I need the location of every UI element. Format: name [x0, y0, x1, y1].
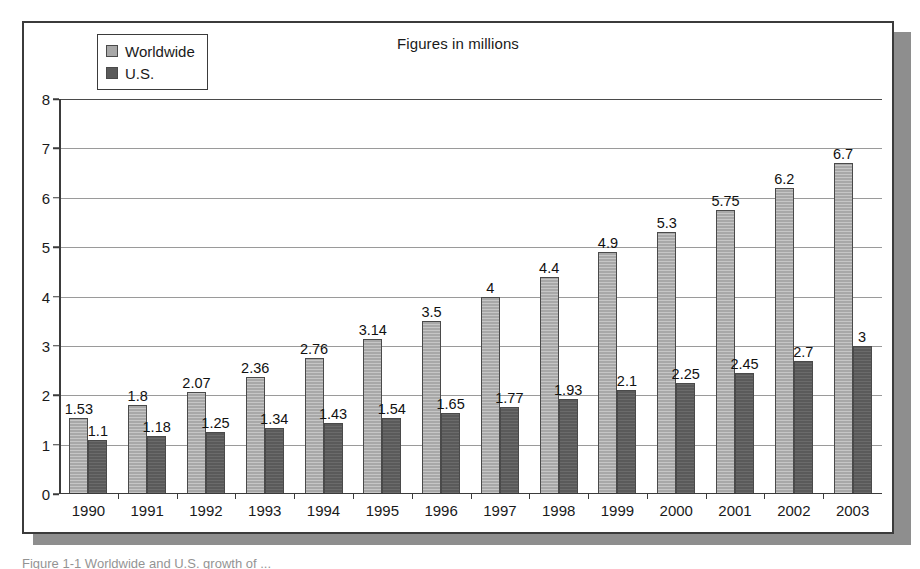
x-tick-mark	[118, 494, 119, 499]
bar-us[interactable]: 2.7	[794, 361, 813, 494]
bar-value-label: 2.25	[672, 366, 700, 382]
bar-group: 3.141.541995	[353, 99, 412, 494]
x-tick-mark	[706, 494, 707, 499]
bar-value-label: 2.36	[241, 360, 269, 376]
bar-worldwide[interactable]: 1.53	[69, 418, 88, 494]
bar-value-label: 3.14	[359, 322, 387, 338]
bar-us[interactable]: 2.25	[676, 383, 695, 494]
x-tick-label: 1993	[248, 502, 281, 519]
x-tick-label: 1995	[366, 502, 399, 519]
bar-value-label: 2.76	[300, 341, 328, 357]
bar-us[interactable]: 1.18	[147, 436, 166, 494]
figure-caption: Figure 1-1 Worldwide and U.S. growth of …	[22, 556, 271, 569]
bar-us[interactable]: 1.34	[265, 428, 284, 494]
x-tick-label: 1990	[72, 502, 105, 519]
y-axis-line	[59, 99, 61, 494]
x-tick-mark	[823, 494, 824, 499]
bar-group: 5.32.252000	[647, 99, 706, 494]
bar-worldwide[interactable]: 6.2	[775, 188, 794, 494]
x-tick-label: 2000	[660, 502, 693, 519]
bar-value-label: 4	[486, 280, 494, 296]
bar-group: 4.92.11999	[588, 99, 647, 494]
x-tick-mark	[647, 494, 648, 499]
y-tick-label: 3	[42, 337, 50, 354]
x-tick-mark	[764, 494, 765, 499]
bar-us[interactable]: 1.65	[441, 413, 460, 494]
bar-us[interactable]: 1.77	[500, 407, 519, 494]
bar-value-label: 1.65	[436, 396, 464, 412]
bar-value-label: 1.93	[554, 382, 582, 398]
bar-us[interactable]: 1.25	[206, 432, 225, 494]
bar-value-label: 1.54	[378, 401, 406, 417]
bar-group: 6.732003	[823, 99, 882, 494]
x-tick-mark	[588, 494, 589, 499]
bar-worldwide[interactable]: 2.36	[246, 377, 265, 494]
bar-us[interactable]: 1.43	[324, 423, 343, 494]
bar-value-label: 3	[858, 329, 866, 345]
x-tick-mark	[471, 494, 472, 499]
chart-frame: Figures in millions Worldwide U.S. 01234…	[22, 21, 894, 534]
bar-value-label: 2.7	[793, 344, 813, 360]
x-tick-mark	[294, 494, 295, 499]
legend-label-worldwide: Worldwide	[125, 43, 195, 60]
bar-worldwide[interactable]: 5.3	[657, 232, 676, 494]
x-tick-label: 2002	[777, 502, 810, 519]
bar-worldwide[interactable]: 6.7	[834, 163, 853, 494]
bar-group: 3.51.651996	[412, 99, 471, 494]
figure-container: Figures in millions Worldwide U.S. 01234…	[0, 0, 920, 569]
bar-value-label: 6.7	[833, 146, 853, 162]
y-tick-label: 6	[42, 189, 50, 206]
x-tick-mark	[235, 494, 236, 499]
bar-value-label: 5.75	[711, 193, 739, 209]
bar-value-label: 1.18	[143, 419, 171, 435]
bar-us[interactable]: 1.54	[382, 418, 401, 494]
bar-worldwide[interactable]: 5.75	[716, 210, 735, 494]
bar-value-label: 5.3	[657, 215, 677, 231]
bar-us[interactable]: 3	[853, 346, 872, 494]
x-tick-label: 2003	[836, 502, 869, 519]
bar-value-label: 1.34	[260, 411, 288, 427]
bar-group: 4.41.931998	[529, 99, 588, 494]
y-tick-label: 2	[42, 387, 50, 404]
y-tick-label: 5	[42, 239, 50, 256]
x-tick-label: 1996	[424, 502, 457, 519]
legend-item-us[interactable]: U.S.	[106, 62, 195, 84]
y-tick-label: 8	[42, 91, 50, 108]
bar-worldwide[interactable]: 2.76	[305, 358, 324, 494]
x-axis-line	[59, 493, 882, 495]
bar-group: 41.771997	[471, 99, 530, 494]
x-tick-mark	[529, 494, 530, 499]
y-tick-label: 7	[42, 140, 50, 157]
legend-swatch-worldwide	[106, 45, 118, 57]
y-tick-label: 0	[42, 486, 50, 503]
legend-item-worldwide[interactable]: Worldwide	[106, 40, 195, 62]
y-tick-label: 1	[42, 436, 50, 453]
x-tick-label: 1997	[483, 502, 516, 519]
bar-group: 2.761.431994	[294, 99, 353, 494]
x-tick-mark	[412, 494, 413, 499]
bar-value-label: 6.2	[774, 171, 794, 187]
bar-value-label: 1.25	[201, 415, 229, 431]
bar-us[interactable]: 1.93	[559, 399, 578, 494]
bar-value-label: 2.07	[182, 375, 210, 391]
bar-value-label: 4.9	[598, 235, 618, 251]
x-tick-mark	[353, 494, 354, 499]
legend-label-us: U.S.	[125, 65, 154, 82]
bar-us[interactable]: 1.1	[88, 440, 107, 494]
bar-worldwide[interactable]: 4.9	[598, 252, 617, 494]
x-tick-label: 1998	[542, 502, 575, 519]
bar-group: 6.22.72002	[764, 99, 823, 494]
x-tick-label: 2001	[718, 502, 751, 519]
bar-us[interactable]: 2.45	[735, 373, 754, 494]
bar-worldwide[interactable]: 2.07	[187, 392, 206, 494]
x-tick-label: 1999	[601, 502, 634, 519]
bar-group: 5.752.452001	[706, 99, 765, 494]
bar-value-label: 1.77	[495, 390, 523, 406]
bar-us[interactable]: 2.1	[617, 390, 636, 494]
x-tick-label: 1994	[307, 502, 340, 519]
x-tick-mark	[177, 494, 178, 499]
bar-group: 2.071.251992	[177, 99, 236, 494]
plot-area: 012345678 1.531.119901.81.1819912.071.25…	[59, 99, 882, 494]
x-tick-label: 1992	[189, 502, 222, 519]
bar-value-label: 1.8	[128, 388, 148, 404]
